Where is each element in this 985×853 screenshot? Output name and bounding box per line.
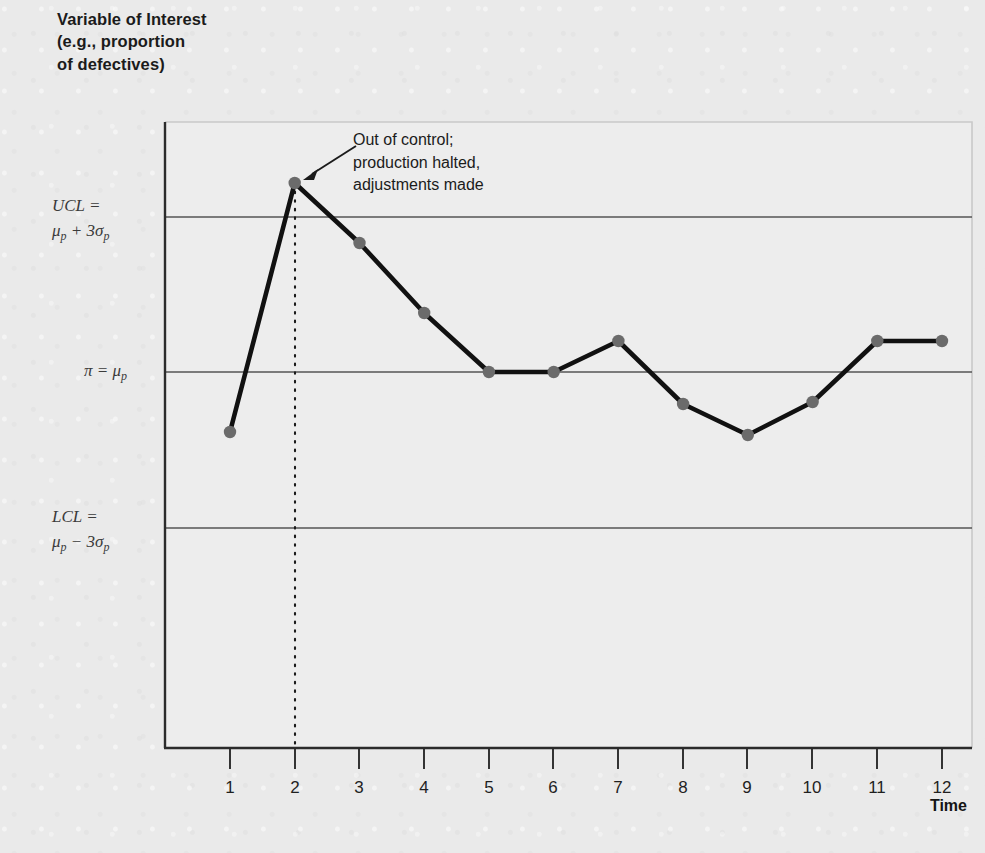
x-tick-label-5: 5 — [484, 778, 493, 797]
x-tick-label-9: 9 — [742, 778, 751, 797]
x-tick-label-3: 3 — [354, 778, 363, 797]
data-point-2 — [289, 177, 301, 189]
data-point-7 — [612, 335, 624, 347]
data-point-1 — [224, 426, 236, 438]
center-line-label: π = μp — [84, 359, 127, 386]
control-chart-figure: Variable of Interest (e.g., proportion o… — [0, 0, 985, 853]
ucl-label-line2: μp + 3σp — [52, 219, 109, 246]
control-chart-plot: 1 2 3 4 5 6 7 8 9 10 11 12 — [0, 0, 985, 853]
x-tick-label-1: 1 — [225, 778, 234, 797]
data-point-12 — [936, 335, 948, 347]
x-tick-label-8: 8 — [678, 778, 687, 797]
lcl-label: LCL = μp − 3σp — [52, 505, 109, 556]
data-point-9 — [742, 429, 754, 441]
lcl-label-line2: μp − 3σp — [52, 530, 109, 557]
x-tick-label-6: 6 — [548, 778, 557, 797]
x-tick-label-7: 7 — [613, 778, 622, 797]
x-tick-label-11: 11 — [868, 778, 886, 797]
out-of-control-annotation: Out of control; production halted, adjus… — [353, 129, 484, 197]
data-point-3 — [353, 237, 365, 249]
data-point-10 — [806, 396, 818, 408]
x-tick-label-10: 10 — [803, 778, 822, 797]
data-point-6 — [548, 366, 560, 378]
data-point-11 — [871, 335, 883, 347]
data-point-8 — [677, 398, 689, 410]
x-axis-title: Time — [930, 797, 967, 815]
x-tick-label-12: 12 — [933, 778, 952, 797]
data-point-5 — [483, 366, 495, 378]
data-point-4 — [418, 307, 430, 319]
x-axis-ticks — [230, 748, 942, 769]
ucl-label: UCL = μp + 3σp — [52, 194, 109, 245]
x-tick-label-4: 4 — [419, 778, 428, 797]
ucl-label-line1: UCL = — [52, 194, 109, 219]
x-tick-label-2: 2 — [290, 778, 299, 797]
x-axis-tick-labels: 1 2 3 4 5 6 7 8 9 10 11 12 — [225, 778, 951, 797]
lcl-label-line1: LCL = — [52, 505, 109, 530]
